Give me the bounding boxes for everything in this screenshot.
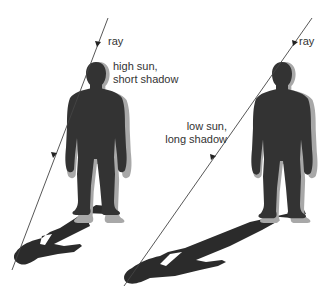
caption-line-2: long shadow bbox=[161, 133, 227, 146]
ray-label-left: ray bbox=[108, 35, 123, 48]
high-sun-panel bbox=[12, 18, 131, 270]
sun-shadow-diagram bbox=[0, 0, 333, 302]
arrow-icon bbox=[292, 40, 298, 46]
caption-line-1: low sun, bbox=[161, 120, 227, 133]
ray-label-right: ray bbox=[299, 35, 314, 48]
caption-line-1: high sun, bbox=[113, 60, 178, 73]
caption-line-2: short shadow bbox=[113, 73, 178, 86]
caption-high-sun: high sun, short shadow bbox=[113, 60, 178, 86]
caption-low-sun: low sun, long shadow bbox=[161, 120, 227, 146]
arrow-icon bbox=[95, 41, 101, 47]
low-sun-panel bbox=[124, 18, 317, 286]
